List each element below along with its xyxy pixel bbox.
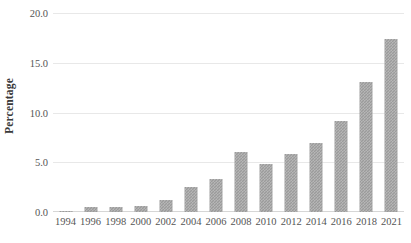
bar[interactable] <box>335 121 348 212</box>
bar[interactable] <box>260 164 273 212</box>
bar-slot <box>279 13 304 212</box>
bar-slot <box>153 13 178 212</box>
y-tick-label: 5.0 <box>18 157 48 168</box>
y-tick-label: 10.0 <box>18 107 48 118</box>
x-tick-label: 1998 <box>105 216 126 227</box>
bar[interactable] <box>385 39 398 212</box>
bar-slot <box>178 13 203 212</box>
bar-slot <box>329 13 354 212</box>
y-tick-label: 0.0 <box>18 207 48 218</box>
x-tick-label: 2008 <box>231 216 252 227</box>
x-tick-label: 2002 <box>155 216 176 227</box>
x-tick-label: 2016 <box>331 216 352 227</box>
bar[interactable] <box>159 200 172 212</box>
bar-slot <box>53 13 78 212</box>
bar[interactable] <box>109 207 122 212</box>
bar-slot <box>379 13 404 212</box>
bar[interactable] <box>184 187 197 212</box>
y-axis-title: Percentage <box>0 0 18 212</box>
plot-area <box>53 13 404 212</box>
y-tick-label: 15.0 <box>18 57 48 68</box>
x-tick-label: 2021 <box>381 216 402 227</box>
x-tick-label: 2000 <box>130 216 151 227</box>
x-tick-label: 2006 <box>205 216 226 227</box>
x-axis-tick-labels: 1994199619982000200220042006200820102012… <box>53 216 404 236</box>
x-tick-label: 1994 <box>55 216 76 227</box>
x-tick-label: 1996 <box>80 216 101 227</box>
y-axis-title-label: Percentage <box>3 78 15 134</box>
bars-layer <box>53 13 404 212</box>
x-tick-label: 2014 <box>306 216 327 227</box>
bar-chart: Percentage 0.05.010.015.020.0 1994199619… <box>0 0 411 243</box>
x-tick-label: 2018 <box>356 216 377 227</box>
x-tick-label: 2004 <box>180 216 201 227</box>
y-tick-label: 20.0 <box>18 8 48 19</box>
bar-slot <box>128 13 153 212</box>
bar-slot <box>229 13 254 212</box>
bar[interactable] <box>134 206 147 212</box>
bar-slot <box>203 13 228 212</box>
bar-slot <box>103 13 128 212</box>
bar-slot <box>254 13 279 212</box>
bar[interactable] <box>59 211 72 212</box>
x-tick-label: 2012 <box>281 216 302 227</box>
x-tick-label: 2010 <box>256 216 277 227</box>
bar[interactable] <box>235 152 248 212</box>
bar-slot <box>304 13 329 212</box>
bar[interactable] <box>84 207 97 212</box>
bar[interactable] <box>360 82 373 212</box>
bar-slot <box>354 13 379 212</box>
bar[interactable] <box>310 143 323 212</box>
bar[interactable] <box>285 154 298 212</box>
bar-slot <box>78 13 103 212</box>
bar[interactable] <box>209 179 222 212</box>
